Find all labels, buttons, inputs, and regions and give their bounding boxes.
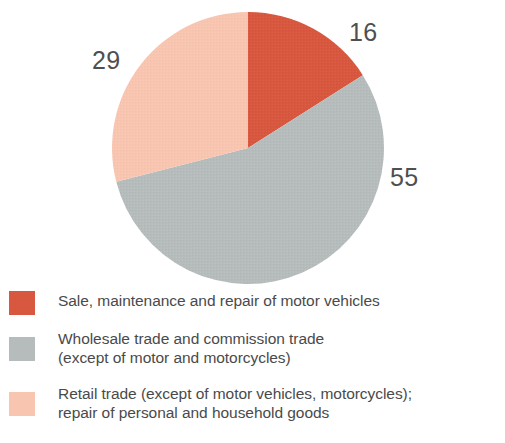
chart-legend: Sale, maintenance and repair of motor ve… — [0, 288, 505, 422]
pie-chart-area: 16 55 29 — [0, 0, 505, 290]
legend-item-wholesale-trade: Wholesale trade and commission trade (ex… — [0, 329, 505, 367]
legend-label-sale-maintenance-repair: Sale, maintenance and repair of motor ve… — [58, 291, 380, 310]
legend-label-retail-trade: Retail trade (except of motor vehicles, … — [58, 384, 412, 422]
legend-item-retail-trade: Retail trade (except of motor vehicles, … — [0, 384, 505, 422]
legend-swatch-peach — [9, 392, 35, 416]
legend-swatch-gray — [9, 337, 35, 361]
legend-label-wholesale-trade: Wholesale trade and commission trade (ex… — [58, 329, 324, 367]
pie-label-value-16: 16 — [349, 18, 377, 47]
pie-chart-graphic — [0, 0, 505, 290]
pie-label-value-29: 29 — [92, 46, 120, 75]
legend-swatch-red — [9, 291, 35, 315]
legend-item-sale-maintenance-repair: Sale, maintenance and repair of motor ve… — [0, 291, 505, 315]
pie-label-value-55: 55 — [390, 163, 418, 192]
